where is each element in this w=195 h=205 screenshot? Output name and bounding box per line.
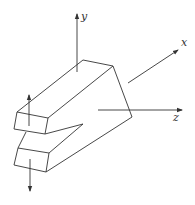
y-axis-label: y: [80, 10, 88, 23]
cracked-beam-diagram: y x z: [0, 0, 195, 205]
x-axis: [128, 50, 178, 83]
beam-body: [14, 60, 132, 172]
x-axis-label: x: [181, 36, 188, 49]
jaw-connector-edge: [18, 132, 26, 148]
right-end-face: [46, 66, 132, 172]
coordinate-axes: y x z: [77, 10, 188, 124]
applied-forces: [29, 95, 30, 191]
z-axis-label: z: [172, 111, 179, 124]
notch-crack: [45, 124, 83, 153]
lower-jaw-front-face: [14, 148, 49, 172]
top-face-edges: [17, 60, 113, 118]
upper-jaw-front-face: [14, 112, 48, 134]
